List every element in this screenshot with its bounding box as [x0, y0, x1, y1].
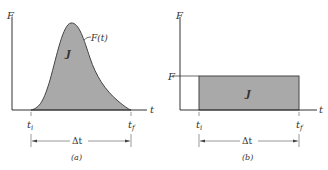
curve-leader-a [84, 37, 91, 40]
panel-a: F t F(t) J ti tf Δt (a) [6, 10, 155, 162]
t-start-label-a: ti [27, 119, 33, 132]
arrowhead-left-b [200, 140, 205, 143]
interval-label-a: Δt [72, 136, 82, 146]
x-axis-label-a: t [150, 104, 155, 115]
arrowhead-left-a [32, 140, 37, 143]
curve-label-a: F(t) [90, 33, 108, 43]
level-label-b: F [167, 71, 176, 82]
arrowhead-right-b [293, 140, 298, 143]
panel-b: F F t J ti tf Δt (b) [167, 10, 324, 162]
caption-a: (a) [71, 153, 82, 162]
y-axis-label-a: F [6, 10, 15, 21]
t-end-label-a: tf [128, 119, 136, 132]
x-axis-label-b: t [319, 104, 324, 115]
t-start-label-b: ti [196, 119, 202, 132]
interval-label-b: Δt [242, 136, 252, 146]
t-end-label-b: tf [296, 119, 304, 132]
impulse-area-curve [31, 23, 131, 110]
y-axis-label-b: F [175, 10, 184, 21]
caption-b: (b) [242, 153, 253, 162]
arrowhead-right-a [125, 140, 130, 143]
impulse-diagram: F t F(t) J ti tf Δt (a) F F t J [0, 0, 328, 170]
